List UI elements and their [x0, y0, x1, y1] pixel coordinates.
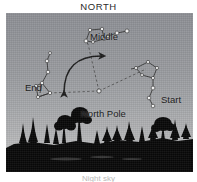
- label-start: Start: [161, 94, 181, 105]
- figure-caption: Night sky: [0, 173, 197, 182]
- label-middle: Middle: [90, 31, 118, 42]
- sky-scene: Middle End Start North Pole: [6, 13, 193, 172]
- figure-root: NORTH: [0, 0, 197, 182]
- label-end: End: [25, 82, 42, 93]
- label-north-pole: North Pole: [81, 108, 126, 119]
- page-title: NORTH: [0, 1, 197, 12]
